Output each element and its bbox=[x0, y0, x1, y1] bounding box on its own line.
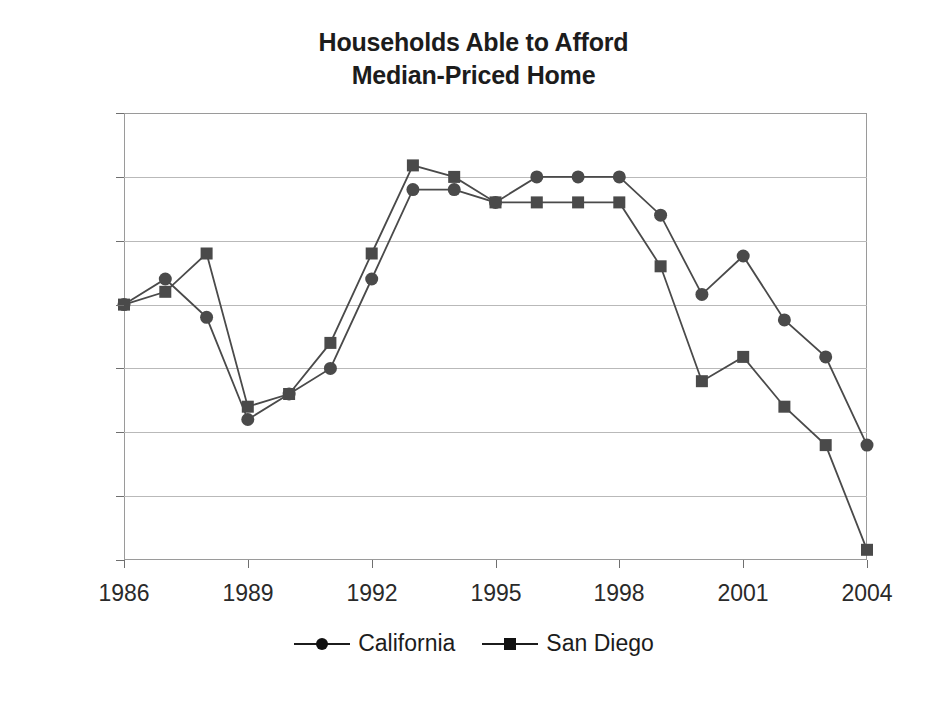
circle-data-marker bbox=[200, 311, 213, 324]
square-data-marker bbox=[778, 401, 790, 413]
x-tick-label: 1992 bbox=[346, 580, 397, 607]
x-tick-label: 1995 bbox=[470, 580, 521, 607]
square-data-marker bbox=[655, 260, 667, 272]
legend-label-san-diego: San Diego bbox=[546, 630, 653, 657]
series-california bbox=[118, 170, 874, 451]
x-tick-mark bbox=[743, 560, 744, 568]
chart-title-line-1: Households Able to Afford bbox=[319, 28, 629, 56]
y-tick-mark bbox=[116, 113, 124, 114]
square-data-marker bbox=[324, 337, 336, 349]
y-tick-mark bbox=[116, 177, 124, 178]
circle-data-marker bbox=[241, 413, 254, 426]
y-tick-mark bbox=[116, 496, 124, 497]
circle-data-marker bbox=[448, 183, 461, 196]
y-tick-mark bbox=[116, 560, 124, 561]
legend-entry-san-diego[interactable]: San Diego bbox=[481, 630, 653, 657]
x-tick-mark bbox=[619, 560, 620, 568]
chart-figure: Households Able to Afford Median-Priced … bbox=[0, 0, 947, 713]
circle-data-marker bbox=[159, 273, 172, 286]
circle-data-marker bbox=[737, 250, 750, 263]
x-tick-label: 1989 bbox=[222, 580, 273, 607]
y-tick-mark bbox=[116, 368, 124, 369]
x-tick-label: 1998 bbox=[593, 580, 644, 607]
square-data-marker bbox=[201, 248, 213, 260]
square-data-marker bbox=[242, 401, 254, 413]
chart-legend: California San Diego bbox=[0, 630, 947, 657]
x-tick-mark bbox=[867, 560, 868, 568]
legend-label-california: California bbox=[358, 630, 455, 657]
series-line bbox=[124, 177, 867, 445]
square-data-marker bbox=[448, 171, 460, 183]
series-san-diego bbox=[118, 159, 873, 555]
square-data-marker bbox=[159, 286, 171, 298]
square-data-marker bbox=[531, 196, 543, 208]
circle-data-marker bbox=[530, 170, 543, 183]
circle-data-marker bbox=[365, 273, 378, 286]
circle-data-marker bbox=[654, 209, 667, 222]
x-tick-mark bbox=[496, 560, 497, 568]
square-data-marker bbox=[572, 196, 584, 208]
x-tick-label: 2001 bbox=[717, 580, 768, 607]
circle-data-marker bbox=[861, 439, 874, 452]
circle-data-marker bbox=[613, 170, 626, 183]
square-data-marker bbox=[696, 375, 708, 387]
circle-data-marker bbox=[695, 288, 708, 301]
y-tick-mark bbox=[116, 305, 124, 306]
square-data-marker bbox=[366, 248, 378, 260]
square-marker-icon bbox=[481, 634, 539, 654]
plot-area bbox=[124, 113, 867, 560]
square-data-marker bbox=[490, 196, 502, 208]
x-tick-mark bbox=[124, 560, 125, 568]
square-data-marker bbox=[407, 159, 419, 171]
x-tick-mark bbox=[248, 560, 249, 568]
square-data-marker bbox=[613, 196, 625, 208]
legend-entry-california[interactable]: California bbox=[293, 630, 455, 657]
x-tick-mark bbox=[372, 560, 373, 568]
y-tick-mark bbox=[116, 432, 124, 433]
square-data-marker bbox=[737, 351, 749, 363]
circle-data-marker bbox=[572, 170, 585, 183]
square-data-marker bbox=[820, 439, 832, 451]
circle-data-marker bbox=[819, 350, 832, 363]
circle-marker-icon bbox=[293, 634, 351, 654]
x-tick-label: 2004 bbox=[841, 580, 892, 607]
chart-title-line-2: Median-Priced Home bbox=[0, 59, 947, 92]
series-line bbox=[124, 165, 867, 549]
circle-data-marker bbox=[406, 183, 419, 196]
square-data-marker bbox=[861, 544, 873, 556]
chart-title: Households Able to Afford Median-Priced … bbox=[0, 26, 947, 92]
circle-data-marker bbox=[324, 362, 337, 375]
series-layer bbox=[124, 113, 867, 560]
y-tick-mark bbox=[116, 241, 124, 242]
square-data-marker bbox=[283, 388, 295, 400]
circle-data-marker bbox=[778, 313, 791, 326]
x-tick-label: 1986 bbox=[98, 580, 149, 607]
